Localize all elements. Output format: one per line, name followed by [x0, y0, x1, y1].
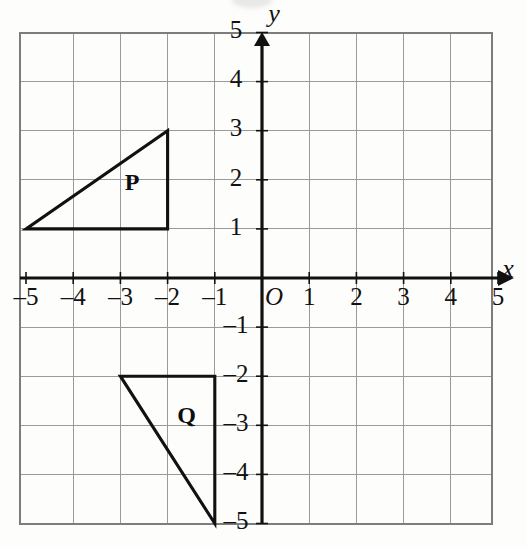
x-tick-label: 4 [445, 283, 458, 310]
axes [20, 32, 514, 524]
x-tick-label: 5 [492, 283, 505, 310]
y-tick-label: 2 [230, 164, 243, 191]
x-tick-label: –2 [154, 283, 180, 310]
x-tick-label: –5 [13, 283, 39, 310]
tick-labels: –5–4–3–2–1O12345–5–4–3–2–112345 [13, 16, 505, 534]
figure-canvas: –5–4–3–2–1O12345–5–4–3–2–112345 PQ y x [0, 0, 527, 549]
x-tick-label: –4 [60, 283, 87, 310]
x-tick-label: 2 [350, 283, 363, 310]
y-tick-label: –3 [223, 409, 249, 436]
shape-label-Q: Q [177, 402, 196, 428]
x-tick-label: –3 [107, 283, 133, 310]
y-tick-label: 3 [230, 114, 243, 141]
coordinate-grid-figure: –5–4–3–2–1O12345–5–4–3–2–112345 PQ y x [0, 0, 527, 549]
x-tick-label: 3 [397, 283, 410, 310]
y-tick-label: –1 [223, 311, 249, 338]
y-tick-label: –4 [223, 458, 250, 485]
x-tick-label: –1 [201, 283, 227, 310]
x-tick-label: 1 [303, 283, 316, 310]
y-tick-label: –2 [223, 360, 249, 387]
x-axis-label: x [501, 254, 514, 283]
y-axis-label: y [265, 0, 280, 28]
y-tick-label: 5 [230, 16, 243, 43]
y-tick-label: 4 [230, 65, 243, 92]
shape-label-P: P [125, 169, 140, 195]
y-axis-arrowhead [254, 32, 270, 46]
y-tick-label: 1 [230, 213, 243, 240]
y-tick-label: –5 [223, 507, 249, 534]
origin-label: O [265, 283, 283, 310]
